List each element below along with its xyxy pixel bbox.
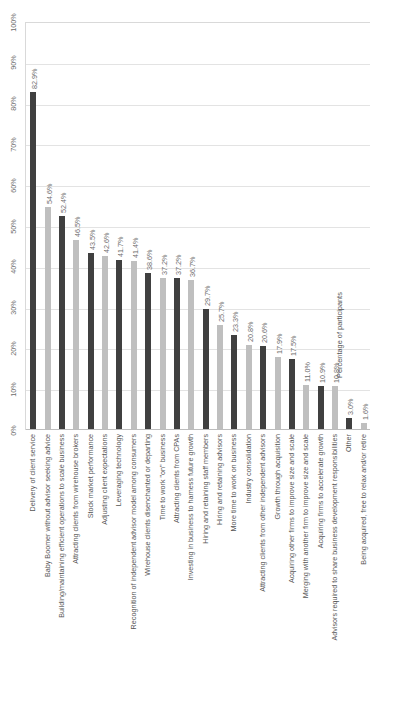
category-slot: Stock market performance xyxy=(83,432,97,682)
bar-value-label: 46.5% xyxy=(73,203,82,237)
value-axis-tick-label: 50% xyxy=(7,219,18,233)
bar-slot: 11.0% xyxy=(299,23,313,430)
bar xyxy=(174,278,180,430)
bar-slot: 41.7% xyxy=(112,23,126,430)
category-axis-tick-label: Time to work "on" business xyxy=(157,434,167,680)
bar xyxy=(246,345,252,430)
bar-slot: 10.9% xyxy=(314,23,328,430)
category-slot: Delivery of client service xyxy=(25,432,39,682)
bar-value-label: 36.7% xyxy=(188,243,197,277)
category-axis-tick-label: Advisors required to share business deve… xyxy=(330,434,340,680)
category-axis-tick-label: Merging with another firm to improve siz… xyxy=(301,434,311,680)
category-slot: Adjusting client expectations xyxy=(97,432,111,682)
bar-slot: 20.8% xyxy=(242,23,256,430)
category-slot: Hiring and retaining advisors xyxy=(212,432,226,682)
category-slot: More time to work on business xyxy=(226,432,240,682)
bar xyxy=(59,216,65,430)
bar-slot: 17.5% xyxy=(285,23,299,430)
value-axis-tick-label: 30% xyxy=(7,300,18,314)
bar xyxy=(73,240,79,430)
bar-slot: 36.7% xyxy=(184,23,198,430)
category-slot: Acquiring firms to accelerate growth xyxy=(313,432,327,682)
bar-slot: 29.7% xyxy=(199,23,213,430)
value-axis-title: Percentage of participants xyxy=(334,238,346,378)
value-axis-tick: 30% xyxy=(0,302,26,313)
category-axis-tick-label: Delivery of client service xyxy=(28,434,38,680)
value-axis-tick-label: 90% xyxy=(7,56,18,70)
bar-slot: 54.6% xyxy=(40,23,54,430)
bar-value-label: 17.9% xyxy=(274,320,283,354)
bar-slot: 17.9% xyxy=(270,23,284,430)
bar-slot: 52.4% xyxy=(55,23,69,430)
category-axis-tick-label: Acquiring firms to accelerate growth xyxy=(315,434,325,680)
bar-value-label: 54.6% xyxy=(44,170,53,204)
category-slot: Building/maintaining efficient operation… xyxy=(54,432,68,682)
bar-value-label: 38.6% xyxy=(145,236,154,270)
category-slot: Industry consolidation xyxy=(241,432,255,682)
bar-slot: 42.6% xyxy=(98,23,112,430)
bar-value-label: 29.7% xyxy=(202,272,211,306)
bar-value-label: 41.4% xyxy=(130,224,139,258)
category-slot: Baby Boomer without advisor seeking advi… xyxy=(39,432,53,682)
bar xyxy=(160,278,166,430)
value-axis-tick: 50% xyxy=(0,221,26,232)
bar xyxy=(231,335,237,430)
bar-value-label: 20.8% xyxy=(245,308,254,342)
category-axis-tick-label: Adjusting client expectations xyxy=(100,434,110,680)
value-axis-tick: 40% xyxy=(0,261,26,272)
category-axis-tick-label: Acquiring other firms to improve size an… xyxy=(286,434,296,680)
category-axis-tick-label: Building/maintaining efficient operation… xyxy=(56,434,66,680)
category-axis-tick-label: Investing in business to harness future … xyxy=(186,434,196,680)
category-axis-tick-label: Hiring and retaining advisors xyxy=(215,434,225,680)
category-axis-line xyxy=(26,429,370,430)
category-slot: Attracting clients from wirehouse broker… xyxy=(68,432,82,682)
category-axis-tick-label: Recognition of independent advisor model… xyxy=(128,434,138,680)
category-slot: Advisors required to share business deve… xyxy=(327,432,341,682)
value-axis-tick-labels: 100%90%80%70%60%50%40%30%20%10%0% xyxy=(0,0,26,432)
value-axis-tick: 10% xyxy=(0,384,26,395)
bar-value-label: 37.2% xyxy=(173,241,182,275)
bar-slot: 37.2% xyxy=(170,23,184,430)
category-slot: Investing in business to harness future … xyxy=(183,432,197,682)
category-axis-tick-label: Hiring and retaining staff members xyxy=(200,434,210,680)
bar-slot: 82.9% xyxy=(26,23,40,430)
category-slot: Growth through acquisition xyxy=(269,432,283,682)
bar-chart: 100%90%80%70%60%50%40%30%20%10%0% 82.9%5… xyxy=(0,0,410,704)
category-axis-tick-label: Industry consolidation xyxy=(243,434,253,680)
category-axis-tick-label: More time to work on business xyxy=(229,434,239,680)
category-axis-tick-label: Leveraging technology xyxy=(114,434,124,680)
value-axis-tick: 90% xyxy=(0,57,26,68)
category-axis-labels: Delivery of client serviceBaby Boomer wi… xyxy=(25,432,370,682)
bar-slot: 25.7% xyxy=(213,23,227,430)
bar-value-label: 10.9% xyxy=(317,349,326,383)
bar xyxy=(188,280,194,430)
bar-value-label: 37.2% xyxy=(159,241,168,275)
value-axis-tick-label: 70% xyxy=(7,137,18,151)
bar-value-label: 11.0% xyxy=(303,348,312,382)
bar xyxy=(45,207,51,430)
bar-value-label: 20.6% xyxy=(260,309,269,343)
category-slot: Other xyxy=(341,432,355,682)
bar-slot: 41.4% xyxy=(127,23,141,430)
value-axis-tick: 70% xyxy=(0,139,26,150)
bar xyxy=(30,92,36,430)
category-slot: Being acquired, free to relax and/or ret… xyxy=(356,432,370,682)
bar-slot: 23.3% xyxy=(227,23,241,430)
category-axis-tick-label: Attracting clients from CPAs xyxy=(171,434,181,680)
bar xyxy=(102,256,108,430)
bar-slot: 38.6% xyxy=(141,23,155,430)
bar-slot: 43.5% xyxy=(84,23,98,430)
bar-value-label: 52.4% xyxy=(58,179,67,213)
value-axis-tick-label: 0% xyxy=(7,425,18,435)
bar-value-label: 41.7% xyxy=(116,223,125,257)
bar xyxy=(203,309,209,430)
value-axis-tick-label: 10% xyxy=(7,382,18,396)
category-slot: Attracting clients from CPAs xyxy=(169,432,183,682)
category-axis-tick-label: Growth through acquisition xyxy=(272,434,282,680)
bar-value-label: 3.0% xyxy=(346,381,355,415)
plot-area: 82.9%54.6%52.4%46.5%43.5%42.6%41.7%41.4%… xyxy=(25,22,370,430)
value-axis-tick: 20% xyxy=(0,343,26,354)
value-axis-tick-label: 80% xyxy=(7,96,18,110)
bar xyxy=(88,253,94,430)
bar-slot: 37.2% xyxy=(155,23,169,430)
